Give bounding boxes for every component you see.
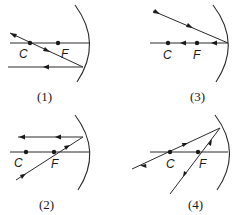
center-of-curvature-point: [166, 41, 170, 45]
panel-2: C F (2): [10, 115, 90, 212]
focal-point: [195, 41, 199, 45]
panel-1: C F (1): [8, 5, 90, 104]
point-label-c: C: [163, 48, 172, 62]
arrow-icon: [19, 135, 25, 140]
center-of-curvature-point: [24, 150, 28, 154]
point-label-c: C: [19, 47, 28, 61]
panel-label: (1): [37, 89, 52, 104]
point-label-f: F: [51, 157, 59, 171]
point-label-c: C: [166, 157, 175, 171]
arrow-icon: [186, 23, 193, 28]
focal-point: [52, 150, 56, 154]
arrow-icon: [153, 9, 160, 14]
arrow-icon: [64, 145, 70, 150]
arrow-icon: [182, 143, 188, 147]
ray-through-f: [170, 128, 220, 194]
panel-label: (2): [39, 197, 54, 212]
arrow-icon: [55, 135, 61, 140]
panel-4: C F (4): [132, 115, 230, 212]
focal-point: [56, 41, 60, 45]
point-label-c: C: [14, 156, 23, 170]
ray-diagram-figure: C F (1) C F (3) C F (2): [0, 0, 240, 215]
ray-through-c: [132, 128, 220, 169]
arrow-icon: [20, 174, 26, 180]
center-of-curvature-point: [28, 41, 32, 45]
panel-3: C F (3): [150, 5, 228, 104]
panel-label: (4): [188, 197, 203, 212]
point-label-f: F: [193, 48, 201, 62]
incident-ray: [16, 137, 83, 180]
center-of-curvature-point: [168, 150, 172, 154]
focal-point: [196, 150, 200, 154]
arrow-icon: [180, 41, 186, 46]
panel-label: (3): [190, 89, 205, 104]
arrow-icon: [43, 65, 49, 70]
arrow-icon: [10, 33, 17, 38]
point-label-f: F: [61, 47, 69, 61]
arrow-icon: [211, 41, 217, 46]
point-label-f: F: [199, 157, 207, 171]
arrow-icon: [43, 47, 50, 52]
